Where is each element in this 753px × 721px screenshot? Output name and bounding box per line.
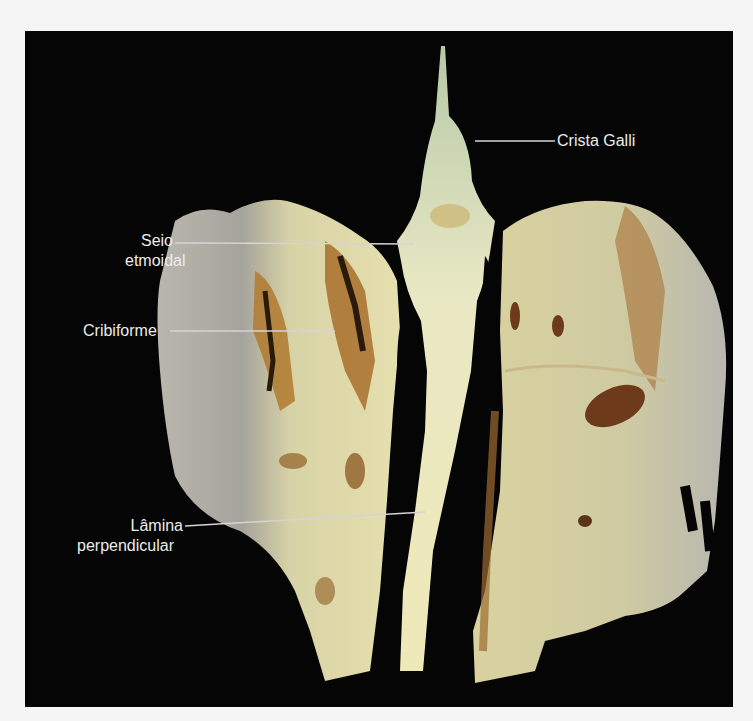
label-lamina-line2: perpendicular [77,536,183,556]
label-seio-line1: Seio [125,231,173,251]
label-lamina-line1: Lâmina [55,516,183,536]
label-crista-galli: Crista Galli [557,131,635,151]
left-lateral-mass [158,200,401,681]
right-lateral-mass [473,201,726,683]
ethmoid-bone-photo: Crista Galli Seio etmoidal Cribiforme Lâ… [25,31,733,707]
label-seio-etmoidal: Seio etmoidal [125,231,173,271]
label-cribiforme: Cribiforme [83,321,157,341]
label-lamina-perpendicular: Lâmina perpendicular [55,516,183,556]
label-seio-line2: etmoidal [125,251,173,271]
seio-etmoidal-leader-line [175,243,415,244]
